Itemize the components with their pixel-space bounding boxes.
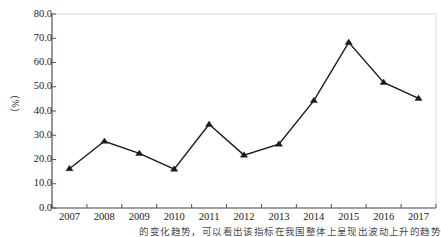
y-axis-tick-labels: 0.010.020.030.040.050.060.070.080.0 [0,0,52,237]
y-tick-label: 10.0 [8,178,52,189]
plot-border [52,14,436,208]
plot-frame [52,14,436,208]
figure-caption: 的变化趋势，可以看出该指标在我国整体上呈现出波动上升的趋势 [0,226,441,237]
data-point-marker [310,97,317,102]
y-tick-label: 70.0 [8,33,52,44]
y-tick-label: 50.0 [8,81,52,92]
data-point-marker [345,39,352,44]
y-tick-label: 60.0 [8,57,52,68]
y-tick-label: 40.0 [8,106,52,117]
line-chart: （%） 0.010.020.030.040.050.060.070.080.0 … [0,0,441,237]
y-axis-tick-marks [52,14,56,208]
data-point-marker [205,121,212,126]
data-point-marker [101,138,108,143]
y-tick-label: 30.0 [8,130,52,141]
data-line [69,42,418,169]
plot-area [0,0,441,237]
y-tick-label: 20.0 [8,154,52,165]
y-tick-label: 80.0 [8,9,52,20]
x-axis-tick-marks [52,204,436,208]
x-tick-label: 2017 [399,211,439,222]
data-point-markers [66,39,422,171]
